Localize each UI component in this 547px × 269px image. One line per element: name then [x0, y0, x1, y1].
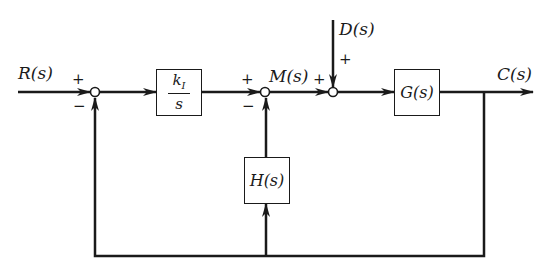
plant-label: G(s) — [400, 83, 433, 102]
summing-junction-1 — [91, 88, 100, 97]
j3-left-plus-sign: + — [313, 72, 326, 87]
j3-top-plus-sign: + — [339, 52, 352, 67]
j2-plus-sign: + — [241, 72, 254, 87]
output-signal-label: C(s) — [497, 66, 532, 83]
inner-feedback-block: H(s) — [244, 157, 290, 204]
intermediate-signal-label: M(s) — [269, 68, 308, 85]
inner-feedback-label: H(s) — [250, 171, 285, 190]
input-signal-label: R(s) — [18, 65, 53, 82]
plant-block: G(s) — [394, 69, 440, 116]
block-diagram: kI s G(s) H(s) R(s) D(s) M(s) C(s) + − +… — [0, 0, 547, 269]
disturbance-signal-label: D(s) — [339, 21, 375, 38]
controller-numerator: kI — [172, 73, 185, 93]
j1-plus-sign: + — [72, 72, 85, 87]
controller-block: kI s — [156, 69, 202, 116]
j2-minus-sign: − — [242, 99, 255, 114]
summing-junction-3 — [329, 88, 338, 97]
summing-junction-2 — [261, 88, 270, 97]
j1-minus-sign: − — [73, 99, 86, 114]
controller-denominator: s — [175, 94, 183, 112]
controller-gain-symbol: k — [172, 71, 181, 89]
diagram-wires — [0, 0, 547, 269]
controller-gain-subscript: I — [182, 80, 186, 91]
controller-fraction: kI s — [168, 73, 190, 112]
